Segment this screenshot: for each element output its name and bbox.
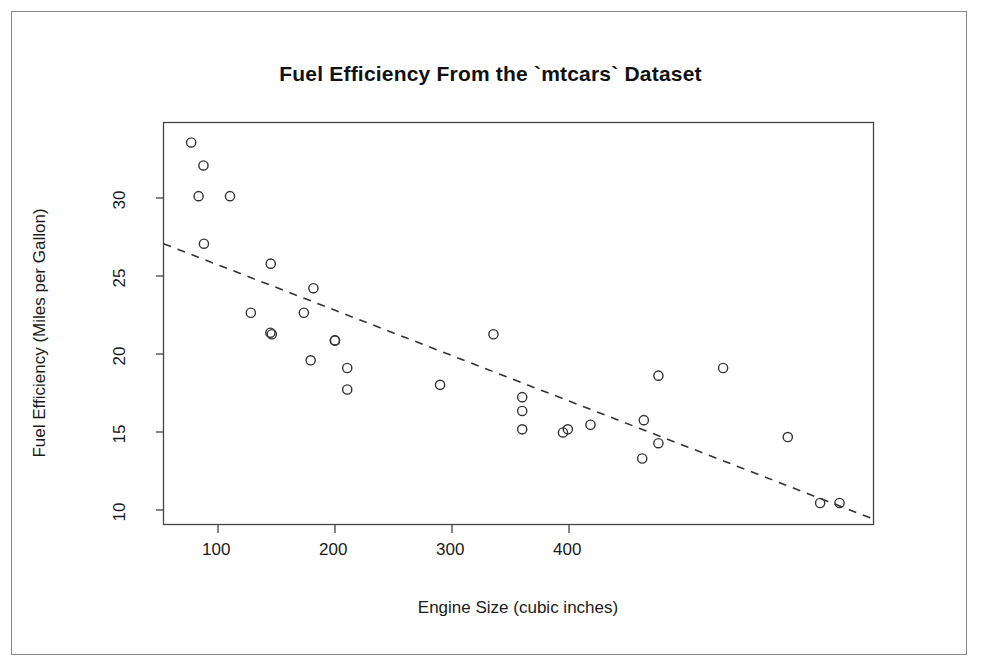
x-axis-label: Engine Size (cubic inches) bbox=[163, 598, 873, 618]
plot-frame bbox=[164, 123, 874, 525]
data-points bbox=[187, 138, 845, 508]
x-tick-label-300: 300 bbox=[436, 540, 464, 560]
x-axis-ticks bbox=[218, 525, 569, 534]
y-tick-label-25: 25 bbox=[110, 269, 130, 288]
scatter-plot bbox=[0, 0, 981, 668]
data-point bbox=[266, 259, 275, 268]
data-point bbox=[816, 498, 825, 507]
y-axis-ticks bbox=[156, 198, 164, 510]
x-tick-label-200: 200 bbox=[319, 540, 347, 560]
y-tick-label-10: 10 bbox=[110, 503, 130, 522]
data-point bbox=[199, 239, 208, 248]
data-point bbox=[194, 192, 203, 201]
regression-line-path bbox=[164, 244, 874, 519]
data-point bbox=[187, 138, 196, 147]
data-point bbox=[718, 363, 727, 372]
data-point bbox=[783, 432, 792, 441]
data-point bbox=[343, 363, 352, 372]
x-tick-label-400: 400 bbox=[553, 540, 581, 560]
data-point bbox=[299, 308, 308, 317]
data-point bbox=[306, 356, 315, 365]
y-tick-label-30: 30 bbox=[110, 191, 130, 210]
data-point bbox=[435, 380, 444, 389]
data-point bbox=[654, 439, 663, 448]
data-point bbox=[654, 371, 663, 380]
regression-line bbox=[164, 244, 874, 519]
data-point bbox=[518, 406, 527, 415]
data-point bbox=[586, 420, 595, 429]
data-point bbox=[639, 416, 648, 425]
chart-page: Fuel Efficiency From the `mtcars` Datase… bbox=[0, 0, 981, 668]
data-point bbox=[246, 308, 255, 317]
data-point bbox=[330, 336, 339, 345]
y-axis-label: Fuel Efficiency (Miles per Gallon) bbox=[30, 183, 50, 483]
y-tick-label-20: 20 bbox=[110, 347, 130, 366]
data-point bbox=[199, 161, 208, 170]
data-point bbox=[518, 393, 527, 402]
data-point bbox=[343, 385, 352, 394]
data-point bbox=[518, 425, 527, 434]
y-tick-label-15: 15 bbox=[110, 425, 130, 444]
data-point bbox=[309, 284, 318, 293]
data-point bbox=[638, 454, 647, 463]
x-tick-label-100: 100 bbox=[202, 540, 230, 560]
data-point bbox=[489, 330, 498, 339]
data-point bbox=[225, 192, 234, 201]
